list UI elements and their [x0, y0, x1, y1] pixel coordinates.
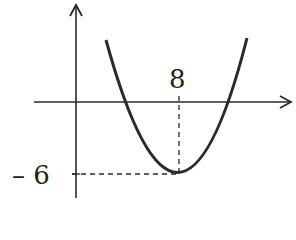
y-vertex-label: – 6	[12, 162, 50, 188]
parabola-curve	[106, 38, 247, 173]
x-axis	[34, 96, 291, 108]
x-vertex-label: 8	[169, 66, 186, 92]
